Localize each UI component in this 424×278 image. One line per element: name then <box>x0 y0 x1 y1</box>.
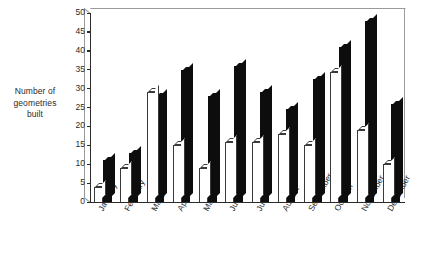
bar-open <box>147 92 156 202</box>
bar-side-face <box>391 157 395 198</box>
y-tick-mark <box>87 145 91 146</box>
bar-side-face <box>312 138 316 198</box>
y-tick-mark <box>87 69 91 70</box>
bar-side-face <box>399 97 403 197</box>
bar-open <box>252 142 261 202</box>
bar-open <box>357 130 366 202</box>
y-tick-mark <box>87 183 91 184</box>
bar-open <box>278 134 287 202</box>
y-tick-label: 5 <box>80 177 85 187</box>
bar-side-face <box>338 65 342 198</box>
bar-open <box>199 168 208 202</box>
y-tick-label: 35 <box>76 64 85 74</box>
y-tick-label: 45 <box>76 26 85 36</box>
bar-open <box>120 168 129 202</box>
bar-open <box>383 164 392 202</box>
bar-open <box>225 142 234 202</box>
bar-side-face <box>189 63 193 197</box>
bar-side-face <box>268 85 272 197</box>
y-tick-mark <box>87 31 91 32</box>
y-tick-mark <box>87 88 91 89</box>
y-tick-label: 25 <box>76 102 85 112</box>
y-tick-mark <box>87 126 91 127</box>
bar-side-face <box>242 59 246 197</box>
bar-side-face <box>294 102 298 197</box>
y-tick-mark <box>87 13 91 14</box>
y-axis-title-line-1: Number of <box>2 86 68 98</box>
bar-side-face <box>216 89 220 197</box>
y-tick-label: 40 <box>76 45 85 55</box>
y-tick-mark <box>87 164 91 165</box>
bar-open <box>304 145 313 202</box>
y-tick-label: 0 <box>80 196 85 206</box>
bar-side-face <box>373 14 377 197</box>
bar-open <box>94 187 103 202</box>
y-axis-title-line-3: built <box>2 109 68 121</box>
bar-open <box>330 72 339 202</box>
bar-side-face <box>233 135 237 198</box>
y-tick-mark <box>87 202 91 203</box>
bar-chart: Number of geometries built 0510152025303… <box>0 0 424 278</box>
y-tick-label: 30 <box>76 83 85 93</box>
y-tick-label: 10 <box>76 158 85 168</box>
bar-side-face <box>155 85 159 198</box>
bar-side-face <box>137 146 141 197</box>
frame-depth-top-edge <box>90 8 406 9</box>
bar-side-face <box>365 123 369 198</box>
bar-side-face <box>347 40 351 197</box>
bar-side-face <box>163 89 167 197</box>
y-tick-label: 50 <box>76 7 85 17</box>
plot-area: 05101520253035404550 <box>90 14 405 203</box>
bar-side-face <box>260 135 264 198</box>
bar-side-face <box>321 72 325 197</box>
y-tick-label: 20 <box>76 120 85 130</box>
y-axis-title-line-2: geometries <box>2 98 68 110</box>
bar-open <box>173 145 182 202</box>
y-tick-label: 15 <box>76 139 85 149</box>
y-axis-title: Number of geometries built <box>2 86 68 121</box>
bar-side-face <box>181 138 185 198</box>
bar-side-face <box>286 127 290 198</box>
y-tick-mark <box>87 107 91 108</box>
bar-side-face <box>128 161 132 198</box>
y-tick-mark <box>87 50 91 51</box>
bar-side-face <box>207 161 211 198</box>
bar-side-face <box>111 153 115 197</box>
